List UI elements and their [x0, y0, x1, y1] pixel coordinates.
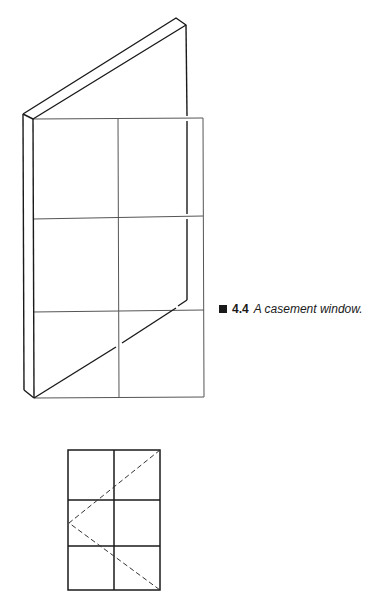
- elevation-view: [68, 450, 160, 590]
- figure-number: 4.4: [232, 302, 249, 316]
- square-bullet-icon: [219, 305, 227, 313]
- caption-text: A casement window.: [254, 302, 363, 316]
- figure-caption: 4.4A casement window.: [219, 302, 363, 316]
- window-frame: [33, 118, 204, 398]
- open-sash: [23, 18, 187, 398]
